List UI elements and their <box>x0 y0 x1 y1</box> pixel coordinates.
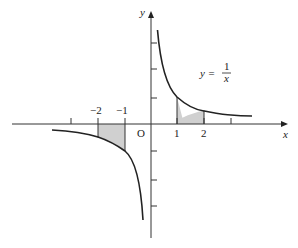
x-axis-label: x <box>282 128 288 140</box>
x-axis-arrow-icon <box>281 121 288 127</box>
x-tick-label-2: 2 <box>201 127 207 139</box>
shaded-region-negative <box>98 124 125 151</box>
hyperbola-branch-negative <box>52 130 143 220</box>
function-lhs: y = <box>199 67 215 79</box>
x-tick-label-1: 1 <box>174 127 180 139</box>
function-label: y = 1 x <box>199 60 231 84</box>
hyperbola-plot: y x O −2 −1 1 2 y = 1 x <box>0 0 298 248</box>
function-numerator: 1 <box>224 60 230 72</box>
y-axis-arrow-icon <box>148 11 154 18</box>
origin-label: O <box>137 127 145 139</box>
function-denominator: x <box>223 72 229 84</box>
y-axis-label: y <box>139 6 145 18</box>
x-tick-label-neg1: −1 <box>116 104 128 116</box>
x-tick-label-neg2: −2 <box>90 104 102 116</box>
